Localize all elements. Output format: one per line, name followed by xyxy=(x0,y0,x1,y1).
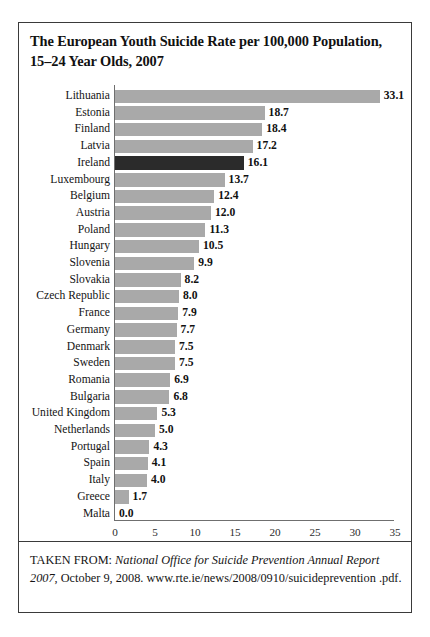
bar-category-label: United Kingdom xyxy=(19,405,110,420)
bar-value-label: 6.9 xyxy=(174,372,189,387)
bar-rect xyxy=(115,440,149,454)
x-tick-label: 10 xyxy=(189,525,200,539)
bar-value-label: 5.0 xyxy=(159,422,174,437)
bar-value-label: 8.0 xyxy=(183,288,198,303)
bar-category-label: Luxembourg xyxy=(19,172,110,187)
plot-area: Lithuania33.1Estonia18.7Finland18.4Latvi… xyxy=(19,85,411,535)
bar-category-label: Finland xyxy=(19,121,110,136)
caption-divider xyxy=(19,541,411,542)
bar-rect xyxy=(115,340,175,354)
bar-category-label: Romania xyxy=(19,372,110,387)
bar-category-label: Poland xyxy=(19,222,110,237)
bar-rect xyxy=(115,474,147,488)
bar-rect xyxy=(115,140,253,154)
bar-category-label: Belgium xyxy=(19,188,110,203)
bar-rect xyxy=(115,424,155,438)
x-tick-label: 35 xyxy=(389,525,400,539)
bar-value-label: 18.7 xyxy=(269,105,289,120)
bar-rect xyxy=(115,457,148,471)
bar-category-label: Lithuania xyxy=(19,88,110,103)
bar-category-label: Spain xyxy=(19,455,110,470)
bar-value-label: 5.3 xyxy=(161,405,176,420)
bar-category-label: Hungary xyxy=(19,238,110,253)
bar-category-label: Austria xyxy=(19,205,110,220)
caption-prefix: TAKEN FROM: xyxy=(30,553,115,567)
bar-rect xyxy=(115,90,380,104)
bar-value-label: 17.2 xyxy=(257,138,277,153)
bar-value-label: 10.5 xyxy=(203,238,223,253)
bar-rect xyxy=(115,373,170,387)
bar-rect xyxy=(115,290,179,304)
bar-rect xyxy=(115,490,129,504)
bar-value-label: 12.0 xyxy=(215,205,235,220)
bar-category-label: Slovakia xyxy=(19,272,110,287)
bar-rect xyxy=(115,273,181,287)
bar-category-label: Bulgaria xyxy=(19,389,110,404)
bar-value-label: 1.7 xyxy=(133,489,148,504)
figure-container: The European Youth Suicide Rate per 100,… xyxy=(18,22,412,613)
bar-category-label: Estonia xyxy=(19,105,110,120)
bar-value-label: 18.4 xyxy=(266,121,286,136)
bar-rect xyxy=(115,240,199,254)
bar-category-label: Germany xyxy=(19,322,110,337)
bar-value-label: 7.5 xyxy=(179,355,194,370)
bar-value-label: 12.4 xyxy=(218,188,238,203)
bar-category-label: France xyxy=(19,305,110,320)
chart-title: The European Youth Suicide Rate per 100,… xyxy=(30,31,400,72)
bar-value-label: 7.7 xyxy=(181,322,196,337)
x-tick-label: 5 xyxy=(152,525,158,539)
x-axis-ticks: 05101520253035 xyxy=(19,522,411,542)
bar-category-label: Portugal xyxy=(19,439,110,454)
bar-value-label: 4.0 xyxy=(151,472,166,487)
bar-rect xyxy=(115,223,205,237)
bar-value-label: 4.3 xyxy=(153,439,168,454)
bar-category-label: Greece xyxy=(19,489,110,504)
bar-rect xyxy=(115,257,194,271)
bar-rect xyxy=(115,123,262,137)
x-tick-label: 15 xyxy=(229,525,240,539)
bar-rect xyxy=(115,173,225,187)
x-tick-label: 25 xyxy=(309,525,320,539)
bar-rect xyxy=(115,106,265,120)
bar-category-label: Ireland xyxy=(19,155,110,170)
bar-category-label: Italy xyxy=(19,472,110,487)
bar-value-label: 8.2 xyxy=(185,272,200,287)
bar-rect xyxy=(115,307,178,321)
bar-value-label: 13.7 xyxy=(229,172,249,187)
bar-value-label: 4.1 xyxy=(152,455,167,470)
bar-category-label: Denmark xyxy=(19,339,110,354)
bar-category-label: Czech Republic xyxy=(19,288,110,303)
bar-value-label: 16.1 xyxy=(248,155,268,170)
bar-value-label: 6.8 xyxy=(173,389,188,404)
bar-value-label: 7.9 xyxy=(182,305,197,320)
bar-value-label: 0.0 xyxy=(119,506,134,521)
x-tick-label: 20 xyxy=(269,525,280,539)
bar-category-label: Malta xyxy=(19,506,110,521)
bar-value-label: 33.1 xyxy=(384,88,404,103)
bar-rect xyxy=(115,206,211,220)
bar-value-label: 9.9 xyxy=(198,255,213,270)
bar-category-label: Slovenia xyxy=(19,255,110,270)
x-tick-label: 0 xyxy=(112,525,118,539)
bar-value-label: 7.5 xyxy=(179,339,194,354)
bar-value-label: 11.3 xyxy=(209,222,229,237)
caption-details: , October 9, 2008. www.rte.ie/news/2008/… xyxy=(55,571,402,585)
source-caption: TAKEN FROM: National Office for Suicide … xyxy=(30,551,402,587)
bar-rect xyxy=(115,390,169,404)
bar-rect xyxy=(115,323,177,337)
bar-category-label: Netherlands xyxy=(19,422,110,437)
bar-category-label: Latvia xyxy=(19,138,110,153)
bar-rect xyxy=(115,407,157,421)
bar-rect xyxy=(115,357,175,371)
bar-rect xyxy=(115,190,214,204)
bar-category-label: Sweden xyxy=(19,355,110,370)
bar-rect xyxy=(115,156,244,170)
x-tick-label: 30 xyxy=(349,525,360,539)
